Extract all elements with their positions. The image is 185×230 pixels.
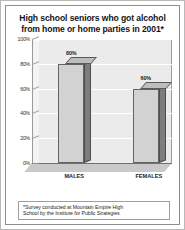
chart-inner-frame: High school seniors who got alcohol from…	[5, 5, 180, 225]
bars-layer: 80%60%	[32, 39, 172, 171]
bar-side-face	[84, 61, 91, 163]
footnote-text: *Survey conducted at Mountain Empire Hig…	[23, 204, 166, 217]
bar-value-label: 80%	[66, 50, 77, 56]
bar-front-face	[58, 64, 84, 163]
bar-females[interactable]	[133, 82, 159, 163]
bar-side-face	[159, 86, 166, 163]
category-label-males: MALES	[64, 173, 84, 179]
y-tick-label: 60%	[20, 86, 30, 91]
footnote-box: *Survey conducted at Mountain Empire Hig…	[18, 201, 170, 220]
footnote-line-2: School by the Institute for Public Strat…	[23, 210, 166, 217]
bar-males[interactable]	[58, 57, 84, 163]
y-tick-label: 40%	[20, 111, 30, 116]
plot-area: 0%20%40%60%80%100% 80%60% MALESFEMALES	[11, 39, 174, 185]
bar-top-face	[65, 57, 97, 64]
x-axis-category-labels: MALESFEMALES	[32, 173, 172, 184]
y-tick-label: 20%	[20, 136, 30, 141]
chart-title: High school seniors who got alcohol from…	[11, 13, 174, 35]
chart-title-line-1: High school seniors who got alcohol	[11, 13, 174, 24]
chart-figure: High school seniors who got alcohol from…	[0, 0, 185, 230]
y-axis: 0%20%40%60%80%100%	[11, 39, 31, 163]
bar-top-face	[140, 82, 172, 89]
y-tick-label: 80%	[20, 61, 30, 66]
chart-title-line-2: from home or home parties in 2001*	[11, 24, 174, 35]
bar-front-face	[133, 89, 159, 163]
y-tick-label: 100%	[18, 37, 30, 42]
footnote-line-1: *Survey conducted at Mountain Empire Hig…	[23, 204, 166, 211]
bar-value-label: 60%	[141, 75, 152, 81]
category-label-females: FEMALES	[135, 173, 162, 179]
